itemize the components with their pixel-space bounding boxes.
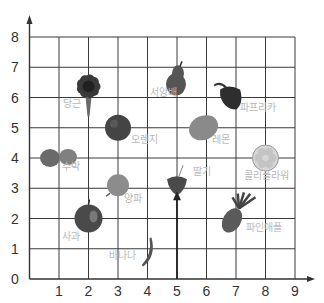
point-label: 레몬 <box>212 134 230 145</box>
x-tick-label: 1 <box>55 283 63 299</box>
x-tick-label: 3 <box>114 283 122 299</box>
y-tick-label: 5 <box>11 120 19 136</box>
x-tick-label: 4 <box>144 283 152 299</box>
point-label: 사과 <box>62 231 80 242</box>
y-tick-label: 2 <box>11 211 19 227</box>
y-tick-label: 3 <box>11 180 19 196</box>
point-label: 파인애플 <box>246 222 282 233</box>
x-tick-label: 9 <box>291 283 299 299</box>
point-label: 양파 <box>124 193 142 204</box>
point-label: 파프리카 <box>240 102 276 113</box>
x-tick-label: 8 <box>262 283 270 299</box>
x-tick-label: 5 <box>173 283 181 299</box>
chart-plot: 123456789012345678 당근서양배파프리카오렌지레몬수박콜리플라워… <box>0 0 324 303</box>
point-label: 당근 <box>63 98 81 109</box>
annotation-arrow <box>173 191 181 279</box>
point-label: 수박 <box>62 161 80 172</box>
x-tick-label: 7 <box>232 283 240 299</box>
cauliflower-icon <box>253 145 279 171</box>
y-tick-label: 6 <box>11 90 19 106</box>
point-label: 오렌지 <box>131 134 158 145</box>
carrot-icon <box>77 75 101 117</box>
y-tick-label: 1 <box>11 241 19 257</box>
point-label: 서양배 <box>150 87 177 98</box>
apple-icon <box>75 200 103 233</box>
x-tick-label: 2 <box>85 283 93 299</box>
orange-icon <box>105 115 131 141</box>
point-label: 바나나 <box>109 250 136 261</box>
x-axis-arrow-icon <box>307 276 315 282</box>
y-tick-label: 4 <box>11 150 19 166</box>
point-label: 딸기 <box>193 166 211 177</box>
y-tick-label: 7 <box>11 59 19 75</box>
x-tick-label: 6 <box>203 283 211 299</box>
point-label: 콜리플라워 <box>244 169 289 181</box>
paprika-icon <box>214 84 241 110</box>
data-points: 당근서양배파프리카오렌지레몬수박콜리플라워딸기양파사과파인애플바나나 <box>40 61 289 265</box>
y-tick-label: 8 <box>11 29 19 45</box>
y-axis-arrow-icon <box>27 15 33 24</box>
y-tick-label: 0 <box>11 271 19 287</box>
